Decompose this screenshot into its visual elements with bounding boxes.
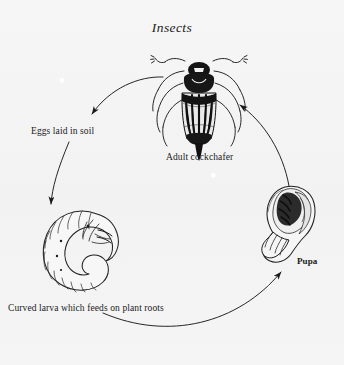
stage-label-adult: Adult cockchafer (166, 152, 233, 162)
stage-label-eggs: Eggs laid in soil (31, 126, 94, 136)
stage-label-pupa: Pupa (297, 256, 317, 266)
stage-label-larva: Curved larva which feeds on plant roots (8, 303, 164, 313)
life-cycle-diagram: Insects (0, 0, 344, 365)
